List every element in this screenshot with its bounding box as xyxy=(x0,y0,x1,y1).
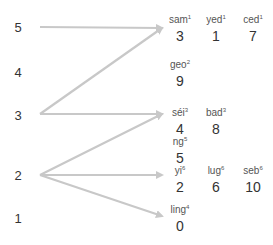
entry-sam: sam13 xyxy=(169,14,191,44)
entry-yi: yi62 xyxy=(175,165,186,195)
arrow-2-to-séi xyxy=(40,114,162,175)
number-value: 2 xyxy=(175,179,186,195)
number-value: 10 xyxy=(243,179,262,195)
number-value: 9 xyxy=(170,73,190,89)
number-value: 8 xyxy=(206,121,226,137)
syllable-label: ng5 xyxy=(173,136,187,148)
tone-superscript: 1 xyxy=(188,14,191,20)
syllable-label: sam1 xyxy=(169,14,191,26)
tone-superscript: 1 xyxy=(222,14,225,20)
tone-superscript: 5 xyxy=(184,136,187,142)
number-value: 3 xyxy=(169,28,191,44)
tone-superscript: 6 xyxy=(259,165,262,171)
syllable-label: yi6 xyxy=(175,165,186,177)
number-value: 1 xyxy=(206,28,225,44)
tone-superscript: 3 xyxy=(185,107,188,113)
syllable-label: bad3 xyxy=(206,107,226,119)
tone-superscript: 4 xyxy=(186,204,189,210)
tone-superscript: 1 xyxy=(259,14,262,20)
syllable-label: ced1 xyxy=(243,14,262,26)
entry-ling: ling40 xyxy=(171,204,190,234)
entry-ng: ng55 xyxy=(173,136,187,166)
tone-label-1: 1 xyxy=(14,211,21,226)
number-value: 0 xyxy=(171,218,190,234)
arrow-2-to-ling xyxy=(40,175,162,216)
tone-label-2: 2 xyxy=(14,168,21,183)
entry-ced: ced17 xyxy=(243,14,262,44)
tone-superscript: 6 xyxy=(221,165,224,171)
arrows-layer xyxy=(0,0,273,245)
syllable-label: yed1 xyxy=(206,14,225,26)
syllable-label: ling4 xyxy=(171,204,190,216)
number-value: 7 xyxy=(243,28,262,44)
tone-superscript: 3 xyxy=(223,107,226,113)
tone-superscript: 2 xyxy=(187,59,190,65)
entry-seb: seb610 xyxy=(243,165,262,195)
entry-séi: séi34 xyxy=(172,107,188,137)
number-value: 5 xyxy=(173,150,187,166)
syllable-label: geo2 xyxy=(170,59,190,71)
entry-bad: bad38 xyxy=(206,107,226,137)
tone-superscript: 6 xyxy=(182,165,185,171)
number-value: 4 xyxy=(172,121,188,137)
syllable-label: seb6 xyxy=(243,165,262,177)
arrow-3-to-sam xyxy=(40,28,162,114)
syllable-label: séi3 xyxy=(172,107,188,119)
tone-label-3: 3 xyxy=(14,108,21,123)
tone-label-4: 4 xyxy=(14,65,21,80)
entry-geo: geo29 xyxy=(170,59,190,89)
arrow-5-to-sam xyxy=(40,27,162,28)
number-value: 6 xyxy=(208,179,225,195)
entry-yed: yed11 xyxy=(206,14,225,44)
entry-lug: lug66 xyxy=(208,165,225,195)
syllable-label: lug6 xyxy=(208,165,225,177)
tone-label-5: 5 xyxy=(14,20,21,35)
